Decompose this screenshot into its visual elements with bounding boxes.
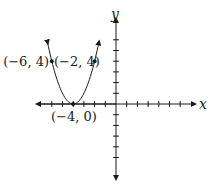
parabola-curve xyxy=(48,42,99,104)
parabola-graph: x y (−6, 4) (−2, 4) (−4, 0) xyxy=(0,0,215,186)
axes xyxy=(38,20,194,178)
y-axis-label: y xyxy=(110,6,120,22)
vertex-dot xyxy=(71,102,75,106)
point-left-label: (−6, 4) xyxy=(3,54,49,69)
point-right-label: (−2, 4) xyxy=(54,54,100,69)
vertex-label: (−4, 0) xyxy=(51,109,97,124)
x-axis-label: x xyxy=(199,96,207,112)
